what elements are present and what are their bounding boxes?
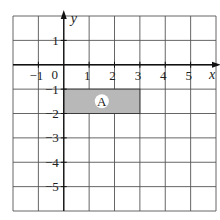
coordinate-grid: A xy0−1123451−1−2−3−4−5: [0, 0, 220, 220]
y-tick-label: −2: [45, 106, 59, 121]
shapes: A: [64, 89, 140, 113]
x-axis-label: x: [208, 67, 216, 82]
y-axis-label: y: [69, 11, 78, 26]
y-tick-label: 1: [52, 33, 59, 48]
x-tick-label: 1: [84, 68, 91, 83]
x-tick-label: −1: [29, 68, 43, 83]
y-axis-arrow-icon: [61, 10, 67, 19]
y-tick-label: −5: [45, 179, 59, 194]
x-tick-label: 4: [160, 68, 167, 83]
y-tick-label: −1: [45, 82, 59, 97]
x-tick-label: 2: [109, 68, 116, 83]
shape-label: A: [97, 94, 107, 109]
origin-label: 0: [52, 67, 59, 82]
x-tick-label: 5: [185, 68, 192, 83]
y-tick-label: −4: [45, 155, 59, 170]
x-tick-label: 3: [135, 68, 142, 83]
y-tick-label: −3: [45, 130, 59, 145]
